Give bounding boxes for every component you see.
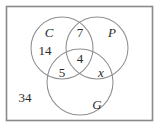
region-value-c-and-p: 7 [77,26,84,39]
set-label-G: G [92,98,101,111]
set-label-P: P [108,26,116,39]
region-value-outside-all: 34 [19,91,32,104]
region-value-c-and-g: 5 [59,66,66,79]
region-value-c-only: 14 [39,44,52,57]
region-value-c-and-p-and-g: 4 [77,52,84,65]
region-value-p-and-g: x [98,66,104,79]
set-label-C: C [45,26,54,39]
venn-diagram-figure: C P G 14 7 5 4 x 34 [0,0,163,129]
